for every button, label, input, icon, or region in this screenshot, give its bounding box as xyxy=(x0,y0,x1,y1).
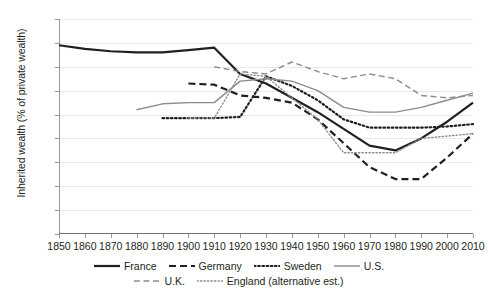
x-tick xyxy=(395,234,396,238)
legend-item-france[interactable]: France xyxy=(94,260,157,272)
legend-item-u-k[interactable]: U.K. xyxy=(134,275,184,287)
legend-label: U.S. xyxy=(364,260,384,272)
chart-legend: FranceGermanySwedenU.S. U.K.England (alt… xyxy=(0,258,478,288)
x-tick xyxy=(137,234,138,238)
legend-swatch-u-s xyxy=(334,261,360,271)
legend-swatch-germany xyxy=(169,261,195,271)
x-tick xyxy=(214,234,215,238)
x-tick xyxy=(240,234,241,238)
y-axis-title: Inherited wealth (% of private wealth) xyxy=(15,0,27,228)
x-tick xyxy=(266,234,267,238)
legend-row-secondary: U.K.England (alternative est.) xyxy=(0,273,478,288)
series-line-england-alternative-est xyxy=(188,74,473,153)
legend-item-england-alternative-est[interactable]: England (alternative est.) xyxy=(197,275,344,287)
x-tick xyxy=(370,234,371,238)
legend-swatch-u-k xyxy=(134,276,160,286)
x-tick xyxy=(292,234,293,238)
x-tick xyxy=(344,234,345,238)
x-tick xyxy=(318,234,319,238)
legend-swatch-england-alternative-est xyxy=(197,276,223,286)
legend-item-u-s[interactable]: U.S. xyxy=(334,260,384,272)
legend-label: England (alternative est.) xyxy=(227,275,344,287)
x-tick xyxy=(473,234,474,238)
x-tick xyxy=(421,234,422,238)
x-tick xyxy=(163,234,164,238)
legend-row-primary: FranceGermanySwedenU.S. xyxy=(0,258,478,273)
legend-item-germany[interactable]: Germany xyxy=(169,260,242,272)
x-tick xyxy=(59,234,60,238)
plot-area: 0%10%20%30%40%50%60%70%80%90% 1850186018… xyxy=(59,19,473,234)
legend-label: Sweden xyxy=(284,260,322,272)
legend-swatch-sweden xyxy=(254,261,280,271)
series-lines xyxy=(59,19,473,234)
legend-swatch-france xyxy=(94,261,120,271)
legend-label: U.K. xyxy=(164,275,184,287)
legend-item-sweden[interactable]: Sweden xyxy=(254,260,322,272)
x-tick xyxy=(111,234,112,238)
x-tick xyxy=(85,234,86,238)
x-tick xyxy=(447,234,448,238)
legend-label: France xyxy=(124,260,157,272)
x-tick xyxy=(188,234,189,238)
x-tick-label: 2010 xyxy=(453,240,489,252)
legend-label: Germany xyxy=(199,260,242,272)
